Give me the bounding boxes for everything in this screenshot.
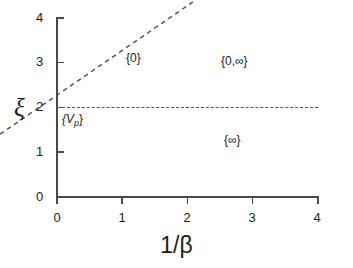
y-tick-3 (57, 62, 64, 64)
x-tick-label-2: 2 (182, 211, 192, 224)
x-tick-3 (252, 197, 254, 204)
y-tick-label-3: 3 (36, 55, 43, 68)
phase-diagram-figure: 0 1 2 3 4 0 1 2 3 4 {0} {0,∞} {Vp} {∞} ξ… (0, 0, 353, 268)
region-label-vp: {Vp} (62, 113, 83, 129)
region-label-zero-infinity: {0,∞} (221, 55, 248, 67)
region-label-vp-main: {V (62, 112, 74, 126)
x-tick-1 (121, 197, 123, 204)
region-label-vp-close: } (79, 112, 83, 126)
x-tick-label-0: 0 (52, 211, 62, 224)
x-axis-title: 1/β (0, 234, 353, 257)
x-tick-label-4: 4 (312, 211, 322, 224)
region-label-infinity: {∞} (224, 134, 241, 146)
x-tick-label-3: 3 (247, 211, 257, 224)
y-tick-label-1: 1 (36, 145, 43, 158)
y-tick-label-4: 4 (36, 11, 43, 24)
y-tick-label-2: 2 (36, 100, 43, 113)
y-tick-0 (57, 196, 64, 198)
x-tick-0 (56, 197, 58, 204)
x-tick-4 (317, 197, 319, 204)
y-tick-4 (57, 17, 64, 19)
x-tick-label-1: 1 (117, 211, 127, 224)
y-tick-1 (57, 151, 64, 153)
x-tick-2 (187, 197, 189, 204)
y-tick-label-0: 0 (36, 190, 43, 203)
region-label-zero: {0} (126, 52, 141, 64)
y-axis-title: ξ (14, 95, 25, 120)
horizontal-boundary-line (57, 107, 318, 108)
